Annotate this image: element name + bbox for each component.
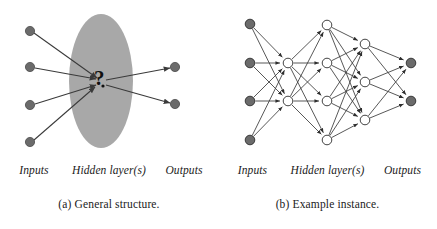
network-edge: [290, 32, 323, 96]
subcaption-b: (b) Example instance.: [218, 198, 437, 210]
input-node: [245, 135, 255, 145]
panel-example-instance: Inputs Hidden layer(s) Outputs (b) Examp…: [218, 0, 437, 229]
label-inputs: Inputs: [224, 164, 282, 176]
input-node: [25, 137, 34, 146]
input-node: [245, 58, 255, 68]
output-nodes-group: [170, 62, 179, 108]
output-node: [406, 58, 416, 68]
network-edge: [292, 69, 321, 98]
network-edge: [330, 29, 361, 75]
network-edge: [330, 51, 361, 97]
hidden-node: [322, 58, 332, 68]
network-edge: [368, 69, 406, 116]
network-edge: [330, 89, 361, 136]
hidden-node: [322, 135, 332, 145]
network-edge: [254, 107, 283, 136]
network-edge: [332, 48, 358, 61]
output-node: [170, 62, 179, 71]
network-edge: [368, 48, 406, 95]
input-node: [25, 100, 34, 109]
figure-container: ? Inputs Hidden layer(s) Outputs (a) Gen…: [0, 0, 437, 229]
network-edge: [370, 104, 404, 118]
hidden-node: [360, 77, 370, 87]
network-edge: [292, 67, 321, 96]
output-node: [170, 99, 179, 108]
hidden-node: [360, 39, 370, 49]
network-nodes-group: [245, 19, 416, 145]
network-edge: [329, 30, 362, 113]
network-edge: [330, 67, 361, 113]
input-node: [245, 19, 255, 29]
network-edge: [252, 70, 284, 135]
hidden-node: [283, 96, 293, 106]
network-edge: [332, 103, 358, 116]
hidden-node: [322, 96, 332, 106]
subcaption-a: (a) General structure.: [0, 198, 218, 210]
label-outputs: Outputs: [374, 164, 432, 176]
output-node: [406, 96, 416, 106]
general-structure-diagram: [0, 0, 218, 160]
hidden-node: [283, 58, 293, 68]
input-node: [245, 96, 255, 106]
question-mark-symbol: ?: [94, 68, 105, 89]
hidden-node: [360, 115, 370, 125]
layer-labels-b: Inputs Hidden layer(s) Outputs: [218, 164, 437, 182]
network-edge: [252, 29, 284, 94]
input-node: [25, 26, 34, 35]
network-edge: [329, 51, 362, 135]
network-edge: [370, 46, 404, 60]
network-edge: [290, 68, 323, 133]
label-inputs: Inputs: [5, 164, 63, 176]
network-edge: [254, 28, 283, 57]
input-node: [25, 62, 34, 71]
label-hidden: Hidden layer(s): [282, 164, 374, 176]
panel-general-structure: ? Inputs Hidden layer(s) Outputs (a) Gen…: [0, 0, 218, 229]
label-hidden: Hidden layer(s): [63, 164, 155, 176]
label-outputs: Outputs: [155, 164, 213, 176]
layer-labels-a: Inputs Hidden layer(s) Outputs: [0, 164, 218, 182]
example-instance-diagram: [218, 0, 437, 160]
network-edges-group: [252, 27, 406, 137]
network-edge: [332, 124, 358, 138]
input-nodes-group: [25, 26, 34, 146]
hidden-node: [322, 20, 332, 30]
